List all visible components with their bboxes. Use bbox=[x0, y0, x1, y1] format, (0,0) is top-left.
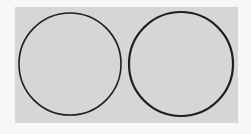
circles-diagram bbox=[0, 0, 251, 134]
left-circle bbox=[19, 13, 121, 115]
right-circle bbox=[129, 12, 233, 116]
